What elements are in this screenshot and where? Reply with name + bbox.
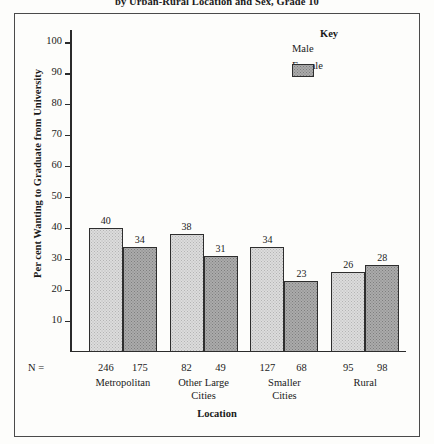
y-axis-title: Per cent Wanting to Graduate from Univer…	[32, 44, 43, 304]
legend-label-male: Male	[292, 43, 314, 54]
y-tick-mark	[65, 135, 70, 136]
y-tick-label: 30	[28, 252, 62, 263]
y-tick-mark	[65, 104, 70, 105]
legend-item-male: Male	[292, 43, 404, 54]
bar-value-label: 38	[182, 221, 192, 232]
y-tick-label: 40	[28, 221, 62, 232]
category-label-2: Smaller Cities	[268, 377, 301, 402]
y-tick-mark	[65, 259, 70, 260]
bar-male-3: 26	[331, 272, 365, 353]
category-label-3: Rural	[354, 377, 377, 390]
bar-female-0: 34	[123, 247, 157, 352]
bar-value-label: 34	[135, 234, 145, 245]
y-tick-label: 90	[28, 66, 62, 77]
y-tick-label: 60	[28, 159, 62, 170]
bar-value-label: 28	[377, 252, 387, 263]
y-tick-mark	[65, 197, 70, 198]
chart-title: by Urban-Rural Location and Sex, Grade 1…	[0, 0, 434, 8]
y-tick-mark	[65, 42, 70, 43]
y-tick-mark	[65, 321, 70, 322]
n-value: 246	[98, 362, 114, 373]
y-tick-label: 80	[28, 97, 62, 108]
n-value: 98	[377, 362, 388, 373]
bar-male-0: 40	[89, 228, 123, 352]
y-tick-label: 20	[28, 283, 62, 294]
bar-value-label: 40	[101, 215, 111, 226]
legend: Key Male Female	[292, 28, 404, 77]
y-tick-mark	[65, 73, 70, 74]
x-axis-title: Location	[0, 408, 434, 419]
legend-swatch-female	[292, 64, 314, 77]
bar-male-2: 34	[250, 247, 284, 352]
y-tick-mark	[65, 166, 70, 167]
category-label-1: Other Large Cities	[178, 377, 229, 402]
n-value: 49	[215, 362, 226, 373]
plot-area: 102030405060708090100 4034383134232628	[70, 30, 406, 352]
category-label-0: Metropolitan	[95, 377, 150, 390]
chart-figure: by Urban-Rural Location and Sex, Grade 1…	[0, 0, 434, 444]
sample-size-row: N = 2461758249127689598	[0, 362, 434, 374]
bar-male-1: 38	[170, 234, 204, 352]
legend-item-female: Female	[292, 60, 404, 71]
n-value: 68	[296, 362, 307, 373]
bar-value-label: 34	[262, 234, 272, 245]
y-tick-label: 50	[28, 190, 62, 201]
n-value: 95	[343, 362, 354, 373]
y-tick-mark	[65, 228, 70, 229]
n-value: 175	[132, 362, 148, 373]
bar-value-label: 31	[216, 243, 226, 254]
n-value: 82	[181, 362, 192, 373]
n-equals-label: N =	[28, 362, 44, 373]
bar-female-3: 28	[365, 265, 399, 352]
y-tick-label: 70	[28, 128, 62, 139]
y-axis-line	[70, 30, 72, 352]
bar-value-label: 26	[343, 259, 353, 270]
bar-value-label: 23	[296, 268, 306, 279]
n-value: 127	[260, 362, 276, 373]
y-tick-label: 10	[28, 314, 62, 325]
legend-title: Key	[320, 28, 404, 39]
bar-female-1: 31	[204, 256, 238, 352]
y-tick-mark	[65, 290, 70, 291]
bar-female-2: 23	[284, 281, 318, 352]
y-tick-label: 100	[28, 35, 62, 46]
